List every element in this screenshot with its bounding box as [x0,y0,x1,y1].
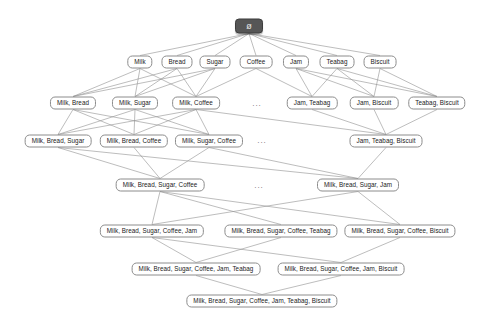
lattice-edge [358,192,400,225]
lattice-edge [73,69,140,97]
itemset-node[interactable]: Bread [161,56,192,69]
itemset-node[interactable]: Milk, Bread [50,97,96,110]
itemset-node[interactable]: Milk, Bread, Coffee [100,135,168,148]
lattice-edge [73,69,177,97]
root-node-empty-set[interactable]: ø [235,19,263,34]
lattice-edge [380,69,437,97]
lattice-edge [296,69,437,97]
lattice-edge [196,110,209,135]
lattice-edge [196,110,386,135]
lattice-edge [160,148,209,179]
lattice-edge [152,192,160,225]
lattice-edge [135,69,177,97]
lattice-edge [58,110,135,135]
itemset-node[interactable]: Milk, Coffee [172,97,220,110]
lattice-edge [135,69,140,97]
lattice-edge [196,238,281,263]
lattice-edge [209,148,358,179]
lattice-edge [341,238,400,263]
itemset-node[interactable]: Sugar [199,56,230,69]
itemset-node[interactable]: Milk [127,56,152,69]
itemset-node[interactable]: Milk, Bread, Sugar, Coffee [116,179,205,192]
lattice-edge [177,34,249,56]
lattice-edge [215,34,249,56]
lattice-edge [135,110,209,135]
itemset-node[interactable]: Jam [283,56,309,69]
lattice-edge [73,110,134,135]
lattice-edge [374,69,380,97]
lattice-edge [296,69,374,97]
lattice-edge [152,192,358,225]
itemset-node[interactable]: Teabag, Biscuit [408,97,465,110]
itemset-node[interactable]: Milk, Bread, Sugar, Jam [317,179,399,192]
itemset-node[interactable]: Milk, Bread, Sugar, Coffee, Jam [100,225,204,238]
lattice-edge [196,69,215,97]
lattice-edge [58,148,358,179]
lattice-edge [249,34,380,56]
lattice-edge [196,69,256,97]
lattice-edge [152,238,196,263]
lattice-edge [134,148,160,179]
itemset-node[interactable]: Jam, Biscuit [350,97,399,110]
lattice-edge [337,69,437,97]
lattice-edge [262,276,341,295]
itemset-node[interactable]: Milk, Bread, Sugar, Coffee, Jam, Teabag,… [186,295,337,308]
lattice-edge [160,192,400,225]
itemset-node[interactable]: Biscuit [364,56,397,69]
lattice-edge [249,34,296,56]
itemset-node[interactable]: Milk, Sugar, Coffee [175,135,243,148]
lattice-edge [58,148,160,179]
lattice-edge [312,69,337,97]
lattice-edge [140,69,196,97]
lattice-edge [160,192,281,225]
lattice-edge [135,69,215,97]
lattice-edge [312,110,386,135]
lattice-edge [73,110,209,135]
itemset-node[interactable]: Jam, Teabag [287,97,338,110]
lattice-edge [152,238,341,263]
itemset-node[interactable]: Milk, Sugar [112,97,158,110]
lattice-edge [386,110,437,135]
lattice-edge [337,69,374,97]
itemset-node[interactable]: Milk, Bread, Sugar, Coffee, Jam, Teabag [132,263,261,276]
lattice-edge [134,110,196,135]
lattice-edge [374,110,386,135]
lattice-edge [296,69,312,97]
itemset-node[interactable]: Milk, Bread, Sugar [25,135,92,148]
itemset-node[interactable]: Teabag [320,56,355,69]
itemset-node[interactable]: Jam, Teabag, Biscuit [350,135,423,148]
itemset-node[interactable]: Milk, Bread, Sugar, Coffee, Teabag [224,225,337,238]
ellipsis-placeholder: ... [257,137,267,145]
lattice-edge [58,110,73,135]
lattice-edge [73,69,215,97]
itemset-node[interactable]: Coffee [240,56,273,69]
lattice-edge [256,69,312,97]
lattice-diagram: øMilkBreadSugarCoffeeJamTeabagBiscuitMil… [0,0,480,323]
itemset-node[interactable]: Milk, Bread, Sugar, Coffee, Biscuit [344,225,455,238]
lattice-edge [134,110,135,135]
lattice-edge [58,110,196,135]
lattice-edge [140,34,249,56]
ellipsis-placeholder: ... [254,182,264,190]
lattice-edge [358,148,386,179]
lattice-edge [196,276,262,295]
ellipsis-placeholder: ... [252,100,262,108]
lattice-edge [249,34,256,56]
itemset-node[interactable]: Milk, Bread, Sugar, Coffee, Jam, Biscuit [278,263,405,276]
lattice-edge [249,34,337,56]
lattice-edge [177,69,196,97]
